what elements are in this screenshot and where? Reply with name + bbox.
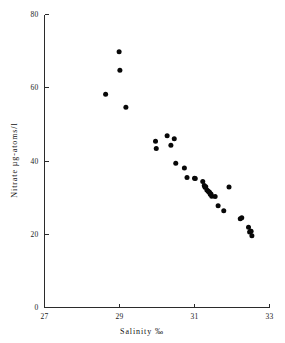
data-point xyxy=(249,229,254,234)
y-axis-label: Nitrate µg-atoms/l xyxy=(10,122,19,197)
x-axis-label: Salinity ‰ xyxy=(120,327,164,336)
x-tick-label: 27 xyxy=(40,312,48,321)
x-tick-label: 29 xyxy=(115,312,123,321)
data-point xyxy=(227,185,232,190)
x-tick-label: 31 xyxy=(190,312,198,321)
data-point xyxy=(173,161,178,166)
data-point xyxy=(249,233,254,238)
data-point xyxy=(117,68,122,73)
data-point xyxy=(172,136,177,141)
data-point xyxy=(213,194,218,199)
data-point xyxy=(182,165,187,170)
axes xyxy=(45,15,270,308)
data-point xyxy=(193,176,198,181)
tick-labels: 02040608027293133 xyxy=(30,10,273,320)
data-points xyxy=(103,49,254,238)
data-point xyxy=(168,143,173,148)
y-tick-label: 40 xyxy=(30,157,38,166)
data-point xyxy=(185,175,190,180)
data-point xyxy=(117,49,122,54)
data-point xyxy=(103,92,108,97)
plot-canvas: 02040608027293133 Salinity ‰ Nitrate µg-… xyxy=(0,0,285,343)
data-point xyxy=(123,105,128,110)
tick-marks xyxy=(45,15,270,308)
y-tick-label: 20 xyxy=(30,230,38,239)
data-point xyxy=(153,139,158,144)
data-point xyxy=(154,146,159,151)
data-point xyxy=(165,133,170,138)
axis-spine xyxy=(45,15,270,308)
x-tick-label: 33 xyxy=(265,312,273,321)
y-tick-label: 0 xyxy=(34,303,38,312)
data-point xyxy=(216,203,221,208)
y-tick-label: 60 xyxy=(30,83,38,92)
data-point xyxy=(239,215,244,220)
scatter-plot-figure: 02040608027293133 Salinity ‰ Nitrate µg-… xyxy=(0,0,285,343)
y-tick-label: 80 xyxy=(30,10,38,19)
data-point xyxy=(221,208,226,213)
